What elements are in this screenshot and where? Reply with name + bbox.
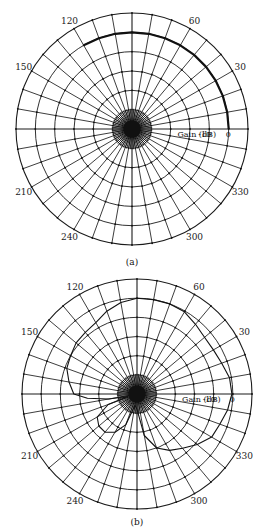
grid-node <box>131 186 133 188</box>
grid-node <box>193 202 195 204</box>
grid-node <box>185 452 187 454</box>
grid-node <box>208 419 210 421</box>
grid-node <box>61 406 63 408</box>
grid-node <box>151 242 153 244</box>
grid-node <box>42 203 44 205</box>
grid-node <box>55 115 57 117</box>
grid-node <box>57 190 59 192</box>
radial-tick-label: 0 <box>226 131 231 139</box>
grid-node <box>136 508 138 510</box>
grid-node <box>23 413 25 415</box>
grid-node <box>118 92 120 94</box>
grid-node <box>81 187 83 189</box>
grid-node <box>161 103 163 105</box>
grid-node <box>210 455 212 457</box>
grid-node <box>123 318 125 320</box>
grid-node <box>111 422 113 424</box>
grid-node <box>180 430 182 432</box>
grid-node <box>111 74 113 76</box>
grid-node <box>91 237 93 239</box>
angle-label-210: 210 <box>15 187 32 196</box>
grid-node <box>98 147 100 149</box>
grid-node <box>98 219 100 221</box>
grid-node <box>144 92 146 94</box>
grid-node <box>224 467 226 469</box>
grid-node <box>79 393 81 395</box>
grid-node <box>57 39 59 41</box>
grid-node <box>210 305 212 307</box>
grid-node <box>165 443 167 445</box>
angle-label-240: 240 <box>61 233 78 242</box>
grid-node <box>48 467 50 469</box>
grid-node <box>17 148 19 150</box>
grid-node <box>77 344 79 346</box>
grid-node <box>151 183 153 185</box>
grid-node <box>101 153 103 155</box>
angle-label-30: 30 <box>239 328 250 337</box>
grid-node <box>189 229 191 231</box>
pattern-curve <box>84 32 229 129</box>
grid-node <box>103 483 105 485</box>
grid-node <box>136 355 138 357</box>
radial-tick-label: -10 <box>198 131 211 139</box>
grid-node <box>165 343 167 345</box>
grid-node <box>42 54 44 56</box>
grid-node <box>206 217 208 219</box>
grid-node <box>106 98 108 100</box>
grid-node <box>110 465 112 467</box>
grid-node <box>77 108 79 110</box>
grid-node <box>156 339 158 341</box>
grid-node <box>34 128 36 130</box>
grid-node <box>179 212 181 214</box>
grid-node <box>116 447 118 449</box>
grid-node <box>198 167 200 169</box>
grid-node <box>118 164 120 166</box>
grid-node <box>105 201 107 203</box>
grid-node <box>212 406 214 408</box>
grid-node <box>53 441 55 443</box>
grid-node <box>46 360 48 362</box>
grid-node <box>118 204 120 206</box>
grid-node <box>48 319 50 321</box>
grid-node <box>93 121 95 123</box>
grid-node <box>136 431 138 433</box>
grid-node <box>198 467 200 469</box>
grid-node <box>97 501 99 503</box>
grid-node <box>236 336 238 338</box>
grid-node <box>168 173 170 175</box>
grid-node <box>106 158 108 160</box>
grid-node <box>172 406 174 408</box>
grid-node <box>98 459 100 461</box>
grid-node <box>131 89 133 91</box>
grid-node <box>136 470 138 472</box>
grid-node <box>170 61 172 63</box>
grid-node <box>58 102 60 104</box>
grid-node <box>185 334 187 336</box>
grid-node <box>62 305 64 307</box>
grid-node <box>145 52 147 54</box>
grid-node <box>150 162 152 164</box>
radial-tick-label: -10 <box>203 396 216 404</box>
grid-node <box>149 318 151 320</box>
grid-node <box>202 355 204 357</box>
grid-node <box>46 426 48 428</box>
polar-chart-b: (b) 3060120150210240300330Gain (dB)-100 <box>0 266 271 532</box>
grid-node <box>55 142 57 144</box>
grid-node <box>69 54 71 56</box>
grid-node <box>131 244 133 246</box>
grid-node <box>174 400 176 402</box>
grid-node <box>138 90 140 92</box>
grid-node <box>47 176 49 178</box>
grid-node <box>158 55 160 57</box>
grid-node <box>173 437 175 439</box>
grid-node <box>161 364 163 366</box>
grid-node <box>131 167 133 169</box>
grid-node <box>103 374 105 376</box>
grid-node <box>91 19 93 21</box>
grid-node <box>79 383 81 385</box>
center-hub <box>123 120 140 137</box>
grid-node <box>57 66 59 68</box>
grid-node <box>136 489 138 491</box>
grid-node <box>107 418 109 420</box>
grid-node <box>149 429 151 431</box>
